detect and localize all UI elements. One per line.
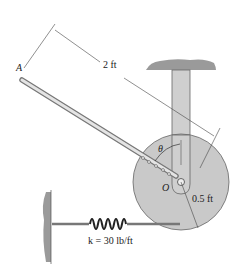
label-angle: θ [158,143,163,154]
label-radius: 0.5 ft [192,193,213,204]
label-spring-constant: k = 30 lb/ft [88,235,133,246]
label-pivot-o: O [162,182,169,193]
label-length: 2 ft [103,59,117,70]
ceiling-ground [146,59,216,70]
label-point-a: A [16,62,22,73]
wall-ground [43,192,51,262]
